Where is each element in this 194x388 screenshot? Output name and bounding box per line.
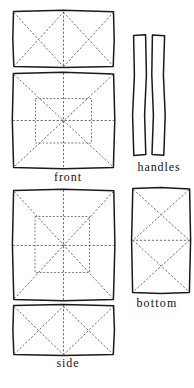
panel-bottom xyxy=(132,188,191,294)
panel-handle-right-outline xyxy=(152,35,165,155)
panel-handle-left xyxy=(133,35,147,156)
panel-top-rect-outline xyxy=(13,10,114,67)
panel-handle-right xyxy=(152,35,165,155)
panel-side-large xyxy=(12,189,115,301)
panel-top-rect-guides xyxy=(14,12,114,68)
panel-side-large-inner-rectangle xyxy=(35,217,90,273)
panel-side-guides xyxy=(14,305,113,355)
pattern-figure-canvas: .ink { fill: none; stroke: #1a1a1a; stro… xyxy=(0,0,194,388)
panel-handle-left-outline xyxy=(133,35,147,156)
caption-side: side xyxy=(22,357,114,370)
panel-side xyxy=(13,304,115,355)
caption-front: front xyxy=(22,171,114,184)
caption-handles: handles xyxy=(124,161,194,174)
panel-front xyxy=(12,72,115,169)
panel-front-guides xyxy=(13,73,115,168)
caption-bottom: bottom xyxy=(120,297,194,310)
panel-top-rect xyxy=(13,10,114,67)
panel-side-large-guides xyxy=(13,190,115,300)
pattern-diagram-sheet: .ink { fill: none; stroke: #1a1a1a; stro… xyxy=(0,0,194,388)
panel-bottom-guides xyxy=(132,189,190,292)
